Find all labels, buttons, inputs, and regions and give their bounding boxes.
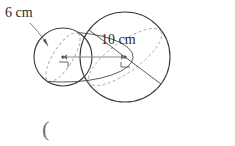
worksheet-figure-page: 6 cm 10 cm ( ) [0, 0, 235, 146]
large-sphere-label: 10 cm [101, 33, 136, 47]
label-pointer-group [30, 23, 49, 47]
small-sphere-label: 6 cm [5, 6, 33, 20]
answer-blank: ( ) [42, 116, 228, 142]
answer-input[interactable] [53, 119, 231, 139]
connector-arrowhead-left [63, 54, 67, 60]
small-sphere-right-angle-mark [59, 62, 68, 67]
center-connector-group [63, 54, 125, 60]
answer-open-paren: ( [42, 118, 49, 140]
